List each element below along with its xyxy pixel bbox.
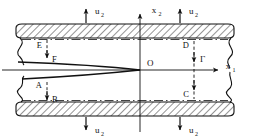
x2-axis-label: x: [152, 5, 157, 15]
point-label-C: C: [183, 89, 189, 99]
x1-axis-subscript: 1: [233, 67, 236, 73]
load-label-top-left: u: [95, 6, 100, 16]
left-break-line-lower: [17, 76, 24, 102]
load-label-bottom-right: u: [189, 125, 194, 135]
point-label-E: E: [37, 40, 42, 50]
point-label-B: B: [52, 94, 58, 104]
point-label-A: A: [36, 80, 43, 90]
load-sub-bottom-left: 2: [101, 131, 104, 137]
x1-axis-label: x: [226, 61, 231, 71]
figure-container: x 1 x 2 O u 2 u 2 u 2 u 2 E F A B: [0, 0, 255, 140]
left-break-line-upper: [18, 38, 24, 65]
top-plate: [16, 24, 234, 38]
right-break-line-lower: [226, 72, 231, 102]
crack-strip-diagram: x 1 x 2 O u 2 u 2 u 2 u 2 E F A B: [0, 0, 255, 140]
load-label-bottom-left: u: [95, 125, 100, 135]
crack-shape: [18, 62, 140, 79]
x2-axis-subscript: 2: [159, 11, 162, 17]
load-label-top-right: u: [189, 6, 194, 16]
load-sub-top-right: 2: [195, 12, 198, 18]
origin-label: O: [147, 58, 154, 68]
bottom-plate: [16, 102, 234, 116]
load-sub-top-left: 2: [101, 12, 104, 18]
point-label-F: F: [52, 54, 57, 64]
load-sub-bottom-right: 2: [195, 131, 198, 137]
point-label-D: D: [183, 40, 189, 50]
contour-gamma-label: Γ: [200, 54, 205, 64]
